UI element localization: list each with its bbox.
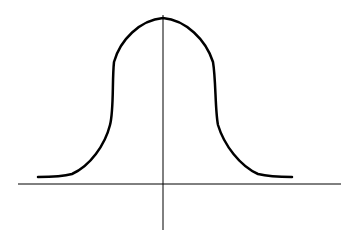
bell-curve [38,18,292,177]
bell-curve-diagram [0,0,359,241]
